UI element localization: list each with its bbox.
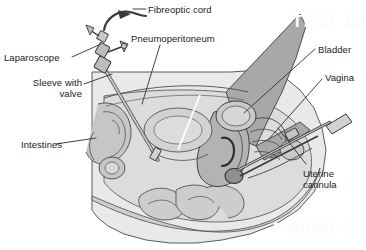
- bladder-organ: [216, 101, 256, 131]
- label-pneumoperitoneum: Pneumoperitoneum: [131, 33, 215, 44]
- anatomy-group: [86, 14, 326, 243]
- label-vagina: Vagina: [325, 72, 354, 83]
- label-sleeve-with-valve: Sleeve with valve: [14, 77, 82, 99]
- label-fibreoptic-cord: Fibreoptic cord: [148, 4, 212, 15]
- label-uterine-cannula: Uterine cannula: [303, 168, 361, 190]
- label-bladder: Bladder: [318, 44, 351, 55]
- bowel-loops: [139, 185, 244, 220]
- label-intestines: Intestines: [21, 139, 62, 150]
- label-laparoscope: Laparoscope: [4, 52, 59, 63]
